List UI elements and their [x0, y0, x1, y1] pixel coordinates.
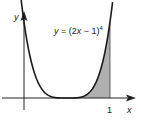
- func-exp: 4: [100, 25, 104, 31]
- func-eq: = (2: [59, 26, 77, 36]
- y-axis-label: y: [13, 12, 19, 22]
- tick-label-1: 1: [107, 105, 112, 115]
- function-label: y = (2x − 1)4: [53, 25, 104, 36]
- func-suffix: − 1): [81, 26, 99, 36]
- function-graph: y x 1 y = (2x − 1)4: [0, 0, 141, 120]
- x-axis-label: x: [126, 105, 132, 115]
